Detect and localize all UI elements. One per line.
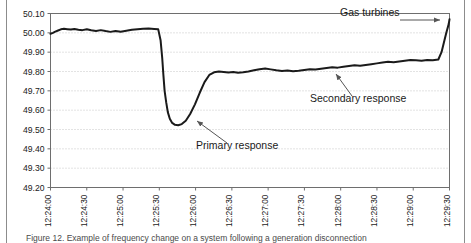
x-axis-tick-label: 12:26:30: [224, 194, 234, 227]
x-axis-tick-label: 12:29:30: [442, 194, 452, 227]
annotation-label-primary-response: Primary response: [196, 139, 278, 151]
y-axis-tick-label: 50.00: [23, 28, 45, 38]
y-axis-tick-label: 50.10: [23, 9, 45, 19]
annotation-label-gas-turbines: Gas turbines: [340, 6, 400, 18]
x-axis-tick-label: 12:24:30: [79, 194, 89, 227]
x-axis-tick-label: 12:28:30: [369, 194, 379, 227]
document-page: 49.2049.3049.4049.5049.6049.7049.8049.90…: [0, 0, 471, 243]
x-axis-tick-label: 12:26:00: [188, 194, 198, 227]
x-axis-tick-label: 12:25:00: [115, 194, 125, 227]
y-axis-tick-label: 49.60: [23, 105, 45, 115]
x-axis-tick-label: 12:27:00: [260, 194, 270, 227]
figure-caption: Figure 12. Example of frequency change o…: [26, 233, 446, 243]
y-axis-tick-label: 49.20: [23, 183, 45, 193]
y-axis-tick-label: 49.80: [23, 67, 45, 77]
x-axis-tick-label: 12:25:30: [151, 194, 161, 227]
y-axis-tick-label: 49.40: [23, 144, 45, 154]
x-axis-tick-label: 12:29:00: [405, 194, 415, 227]
x-axis-tick-label: 12:27:30: [296, 194, 306, 227]
x-axis-tick-label: 12:24:00: [43, 194, 53, 227]
annotation-label-secondary-response: Secondary response: [310, 92, 406, 104]
y-axis-tick-label: 49.50: [23, 125, 45, 135]
frequency-chart: 49.2049.3049.4049.5049.6049.7049.8049.90…: [0, 0, 471, 243]
frequency-response-figure: 49.2049.3049.4049.5049.6049.7049.8049.90…: [0, 0, 471, 243]
y-axis-tick-label: 49.30: [23, 163, 45, 173]
x-axis-tick-label: 12:28:00: [333, 194, 343, 227]
y-axis-tick-label: 49.90: [23, 47, 45, 57]
y-axis-tick-label: 49.70: [23, 86, 45, 96]
